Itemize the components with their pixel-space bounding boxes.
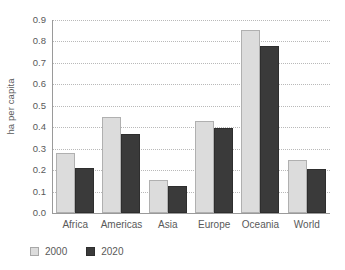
- y-axis-tick-label: 0.8: [2, 36, 46, 46]
- bar-group: [145, 20, 191, 213]
- y-axis-tick-label: 0.6: [2, 79, 46, 89]
- bar-group: [52, 20, 98, 213]
- bar-africa-2020: [75, 168, 94, 213]
- bar-oceania-2020: [260, 46, 279, 213]
- y-axis-tick-label: 0.0: [2, 208, 46, 218]
- legend-item-2000[interactable]: 2000: [30, 246, 67, 257]
- legend-swatch-2000: [30, 247, 39, 256]
- bar-group: [98, 20, 144, 213]
- y-axis-tick-label: 0.7: [2, 58, 46, 68]
- bar-europe-2020: [214, 128, 233, 213]
- y-axis-tick-label: 0.4: [2, 122, 46, 132]
- y-axis-tick-label: 0.5: [2, 101, 46, 111]
- bar-group: [237, 20, 283, 213]
- bar-world-2020: [307, 169, 326, 213]
- bar-americas-2020: [121, 134, 140, 213]
- legend-label-2020: 2020: [101, 246, 123, 257]
- chart-legend: 20002020: [30, 246, 124, 257]
- x-axis-tick-labels: AfricaAmericasAsiaEuropeOceaniaWorld: [52, 218, 330, 234]
- bar-oceania-2000: [241, 30, 260, 213]
- bar-group: [284, 20, 330, 213]
- x-axis-tick-label: Oceania: [237, 218, 283, 234]
- legend-swatch-2020: [86, 247, 95, 256]
- x-axis-tick-label: World: [284, 218, 330, 234]
- bar-world-2000: [288, 160, 307, 213]
- bar-africa-2000: [56, 153, 75, 213]
- gridline: [52, 213, 330, 214]
- bar-groups: [52, 20, 330, 213]
- x-axis-tick-label: Africa: [52, 218, 98, 234]
- bar-group: [191, 20, 237, 213]
- y-axis-tick-label: 0.2: [2, 165, 46, 175]
- bar-asia-2020: [168, 186, 187, 213]
- legend-item-2020[interactable]: 2020: [86, 246, 123, 257]
- bar-asia-2000: [149, 180, 168, 213]
- bar-europe-2000: [195, 121, 214, 213]
- y-axis-tick-label: 0.9: [2, 15, 46, 25]
- x-axis-tick-label: Asia: [145, 218, 191, 234]
- bar-americas-2000: [102, 117, 121, 214]
- y-axis-tick-labels: 0.00.10.20.30.40.50.60.70.80.9: [0, 20, 46, 213]
- y-axis-tick-label: 0.3: [2, 144, 46, 154]
- x-axis-tick-label: Americas: [98, 218, 144, 234]
- bar-chart-figure: ha per capita 0.00.10.20.30.40.50.60.70.…: [0, 0, 345, 270]
- y-axis-tick-label: 0.1: [2, 187, 46, 197]
- legend-label-2000: 2000: [45, 246, 67, 257]
- x-axis-tick-label: Europe: [191, 218, 237, 234]
